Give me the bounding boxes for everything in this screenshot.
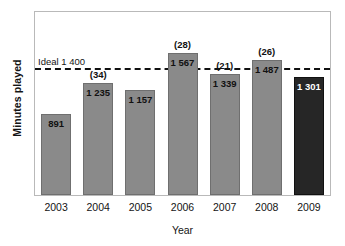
bar-value-label-2005: 1 157 (126, 94, 154, 105)
plot-area: 8911 235(34)1 1571 567(28)1 339(21)1 487… (34, 11, 331, 196)
ideal-reference-label: Ideal 1 400 (38, 56, 85, 67)
bar-annotation-2004: (34) (73, 69, 123, 80)
bar-2007[interactable]: 1 339 (210, 74, 240, 195)
bar-2003[interactable]: 891 (41, 114, 71, 195)
bar-value-label-2007: 1 339 (211, 78, 239, 89)
bar-annotation-2007: (21) (200, 60, 250, 71)
bar-value-label-2008: 1 487 (253, 64, 281, 75)
x-tick-label-2008: 2008 (246, 201, 288, 213)
bar-value-label-2004: 1 235 (84, 87, 112, 98)
bar-2009[interactable]: 1 301 (294, 77, 324, 195)
x-tick-label-2007: 2007 (204, 201, 246, 213)
x-tick-label-2003: 2003 (35, 201, 77, 213)
bar-annotation-2006: (28) (158, 39, 208, 50)
bar-value-label-2009: 1 301 (295, 81, 323, 92)
x-tick-label-2004: 2004 (77, 201, 119, 213)
x-tick-label-2009: 2009 (288, 201, 330, 213)
x-tick-label-2005: 2005 (119, 201, 161, 213)
y-axis-title: Minutes played (0, 0, 34, 196)
x-axis-title: Year (34, 224, 331, 236)
bar-2005[interactable]: 1 157 (125, 90, 155, 195)
plot-inner: 8911 235(34)1 1571 567(28)1 339(21)1 487… (35, 12, 330, 195)
bar-2004[interactable]: 1 235 (83, 83, 113, 195)
bar-2008[interactable]: 1 487 (252, 60, 282, 195)
bar-2006[interactable]: 1 567 (168, 53, 198, 195)
bar-annotation-2008: (26) (242, 46, 292, 57)
bar-value-label-2003: 891 (42, 118, 70, 129)
x-tick-label-2006: 2006 (161, 201, 203, 213)
y-axis-title-label: Minutes played (11, 59, 23, 136)
bar-chart-figure: Minutes played 8911 235(34)1 1571 567(28… (0, 0, 345, 246)
bar-value-label-2006: 1 567 (169, 57, 197, 68)
